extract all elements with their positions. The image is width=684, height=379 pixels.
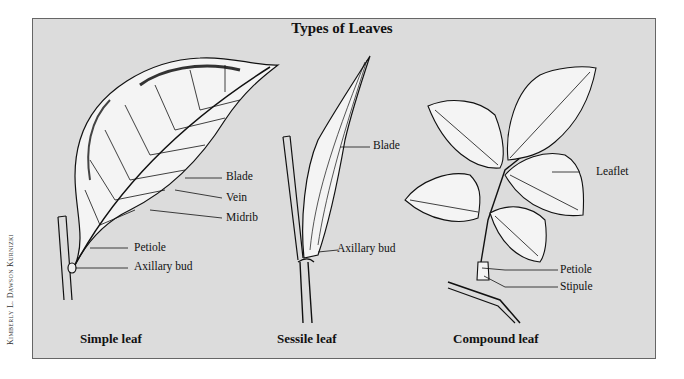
label-simple-axillary-bud: Axillary bud <box>134 260 192 272</box>
label-compound-petiole: Petiole <box>560 263 592 275</box>
label-simple-blade: Blade <box>226 170 253 182</box>
label-compound-stipule: Stipule <box>560 280 593 292</box>
label-simple-petiole: Petiole <box>134 241 166 253</box>
caption-simple-leaf: Simple leaf <box>80 331 142 347</box>
label-simple-midrib: Midrib <box>226 211 258 223</box>
label-sessile-axillary-bud: Axillary bud <box>337 242 395 254</box>
label-simple-vein: Vein <box>226 191 247 203</box>
caption-sessile-leaf: Sessile leaf <box>277 331 337 347</box>
sessile-leaf-illustration <box>283 56 370 323</box>
label-compound-leaflet: Leaflet <box>596 165 629 177</box>
caption-compound-leaf: Compound leaf <box>453 331 539 347</box>
label-sessile-blade: Blade <box>373 139 400 151</box>
leaf-illustrations <box>0 0 684 379</box>
